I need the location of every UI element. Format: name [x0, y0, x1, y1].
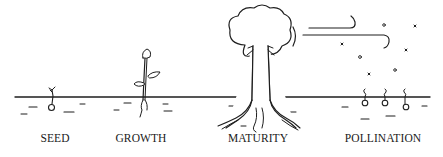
stage-label-pollination: POLLINATION [345, 132, 421, 144]
seed-sprout-icon [49, 87, 56, 111]
stage-label-growth: GROWTH [115, 132, 166, 144]
stage-label-seed: SEED [40, 132, 69, 144]
life-cycle-diagram: SEED GROWTH MATURITY POLLINATION [0, 0, 443, 157]
pollen-particles-icon [341, 24, 416, 75]
tree-icon [218, 5, 300, 132]
stage-label-maturity: MATURITY [228, 132, 288, 144]
sprouting-seeds-icon [362, 89, 409, 110]
young-plant-icon [134, 49, 160, 117]
